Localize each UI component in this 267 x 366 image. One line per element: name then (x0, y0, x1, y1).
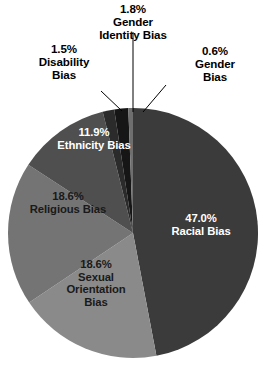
leader-line-disability (101, 91, 122, 111)
slice-label-gender: 0.6% Gender Bias (170, 44, 260, 83)
slice-label-racial: 47.0% Racial Bias (146, 212, 256, 237)
slice-label-gender-identity: 1.8% Gender Identity Bias (66, 2, 200, 41)
slice-label-disability: 1.5% Disability Bias (18, 42, 110, 81)
leader-line-gender (143, 85, 166, 112)
slice-label-religious: 18.6% Religious Bias (6, 190, 130, 215)
pie-chart: 1.8% Gender Identity Bias 1.5% Disabilit… (0, 0, 267, 366)
leader-line-group (101, 32, 166, 112)
slice-label-ethnicity: 11.9% Ethnicity Bias (34, 126, 154, 151)
slice-label-sexual-orientation: 18.6% Sexual Orientation Bias (40, 258, 152, 309)
